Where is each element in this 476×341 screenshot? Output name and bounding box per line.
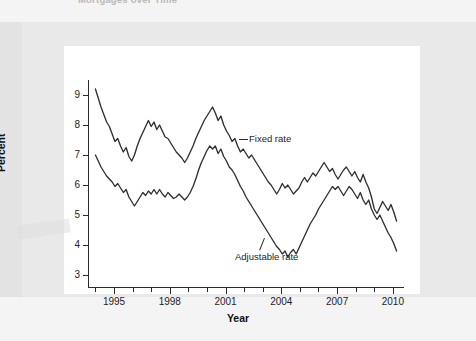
series-line-adjustable-rate xyxy=(95,146,396,257)
figure-caption: Mortgages over Time xyxy=(78,0,177,5)
series-label-fixed-rate: Fixed rate xyxy=(249,133,291,144)
x-tick-label: 2010 xyxy=(373,296,413,307)
x-tick-label: 2004 xyxy=(261,296,301,307)
series-label-adjustable-rate: Adjustable rate xyxy=(235,251,298,262)
series-line-fixed-rate xyxy=(95,89,396,221)
x-tick-label: 2007 xyxy=(317,296,357,307)
x-axis-title: Year xyxy=(0,312,476,324)
x-tick-label: 1995 xyxy=(94,296,134,307)
figure-container: Percent Year 3456789 1995199820012004200… xyxy=(0,22,476,297)
x-tick-label: 1998 xyxy=(150,296,190,307)
fixed-rate-leader-line xyxy=(239,139,248,140)
x-tick-label: 2001 xyxy=(206,296,246,307)
